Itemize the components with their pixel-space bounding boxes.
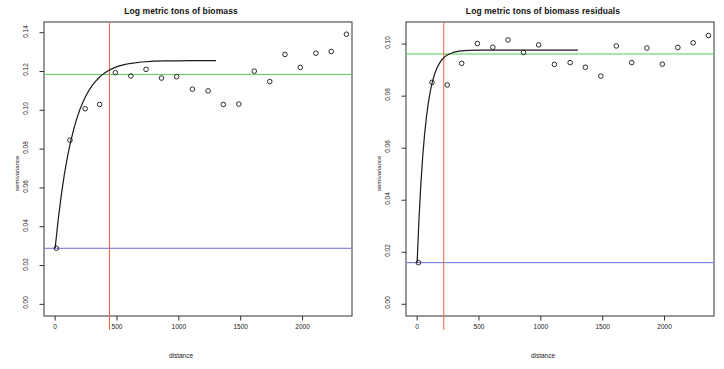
data-point: [344, 32, 349, 37]
plot-area-biomass: [0, 0, 362, 369]
data-point: [314, 51, 319, 56]
data-point: [267, 79, 272, 84]
data-point: [568, 60, 573, 65]
x-tick-label: 1500: [595, 323, 609, 330]
data-point: [144, 67, 149, 72]
data-point: [206, 89, 211, 94]
y-tick-label: 0.00: [384, 292, 391, 314]
plot-area-biomass-residuals: [362, 0, 724, 369]
data-point: [660, 62, 665, 67]
x-tick-label: 500: [474, 323, 485, 330]
x-tick-label: 500: [112, 323, 123, 330]
y-tick-label: 0.04: [22, 214, 29, 236]
x-tick-label: 1000: [172, 323, 186, 330]
data-point: [298, 65, 303, 70]
data-point: [536, 43, 541, 48]
data-point: [329, 49, 334, 54]
data-point: [159, 76, 164, 81]
data-point: [459, 61, 464, 66]
y-tick-label: 0.14: [22, 20, 29, 42]
data-point: [583, 65, 588, 70]
data-point: [221, 102, 226, 107]
data-point: [283, 52, 288, 57]
data-point: [706, 33, 711, 38]
model-curve: [55, 61, 216, 249]
model-curve: [417, 50, 578, 263]
x-tick-label: 1000: [534, 323, 548, 330]
y-tick-label: 0.12: [22, 59, 29, 81]
data-point: [83, 106, 88, 111]
data-point: [491, 45, 496, 50]
data-point: [190, 87, 195, 92]
x-tick-label: 1500: [233, 323, 247, 330]
y-tick-label: 0.08: [22, 137, 29, 159]
data-point: [445, 83, 450, 88]
y-tick-label: 0.02: [384, 240, 391, 262]
x-tick-label: 2000: [657, 323, 671, 330]
y-tick-label: 0.00: [22, 292, 29, 314]
data-point: [645, 46, 650, 51]
x-tick-label: 0: [415, 323, 419, 330]
data-point: [676, 45, 681, 50]
data-point: [629, 60, 634, 65]
panel-biomass: Log metric tons of biomass semivariance …: [0, 0, 362, 369]
data-point: [237, 102, 242, 107]
x-tick-label: 0: [53, 323, 57, 330]
y-tick-label: 0.10: [22, 98, 29, 120]
data-point: [614, 44, 619, 49]
y-tick-label: 0.10: [384, 32, 391, 54]
data-point: [252, 69, 257, 74]
data-point: [691, 41, 696, 46]
variogram-figure: Log metric tons of biomass semivariance …: [0, 0, 724, 369]
y-tick-label: 0.02: [22, 253, 29, 275]
y-tick-label: 0.06: [22, 175, 29, 197]
data-point: [552, 62, 557, 67]
data-point: [97, 102, 102, 107]
data-point: [506, 38, 511, 43]
data-point: [174, 74, 179, 79]
data-point: [599, 74, 604, 79]
data-point: [475, 41, 480, 46]
y-tick-label: 0.06: [384, 136, 391, 158]
y-tick-label: 0.08: [384, 84, 391, 106]
y-tick-label: 0.04: [384, 188, 391, 210]
x-tick-label: 2000: [295, 323, 309, 330]
panel-biomass-residuals: Log metric tons of biomass residuals sem…: [362, 0, 724, 369]
